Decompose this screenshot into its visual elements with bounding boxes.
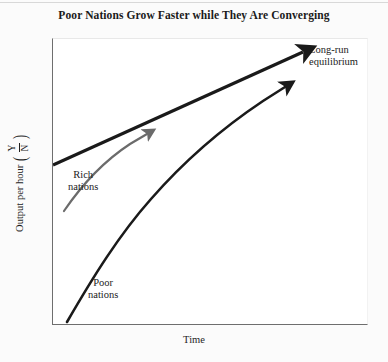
paren-open-icon: (: [10, 157, 29, 161]
figure-container: Poor Nations Grow Faster while They Are …: [0, 0, 388, 362]
longrun-label-line1: Long-run: [309, 44, 358, 56]
rich-label-line2: nations: [68, 181, 98, 193]
y-axis-label: Output per hour ( Y N ): [8, 73, 30, 293]
poor-label-line1: Poor: [88, 277, 118, 289]
poor-nations-text: Poor nations: [88, 277, 118, 302]
top-divider: [0, 2, 388, 3]
fraction-denominator: N: [20, 144, 30, 153]
longrun-equilibrium-label: Long-run equilibrium: [309, 44, 358, 69]
x-axis-label: Time: [0, 334, 388, 345]
paren-close-icon: ): [10, 135, 29, 139]
rich-nations-text: Rich nations: [68, 169, 98, 194]
rich-label-line1: Rich: [68, 169, 98, 181]
fraction-numerator: Y: [8, 144, 18, 153]
y-axis-label-text: Output per hour: [14, 165, 25, 232]
output-per-worker-fraction: Y N: [8, 143, 30, 152]
longrun-label-line2: equilibrium: [309, 56, 358, 68]
poor-label-line2: nations: [88, 289, 118, 301]
page-title: Poor Nations Grow Faster while They Are …: [0, 9, 388, 21]
longrun-equilibrium-line: [53, 52, 303, 165]
